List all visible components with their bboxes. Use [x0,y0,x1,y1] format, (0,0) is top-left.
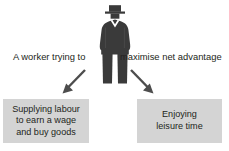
worker-net-advantage-diagram: A worker trying to maximise net advantag… [0,0,229,151]
arrow-to-enjoying-leisure-icon [128,68,158,98]
arrow-to-supplying-labour-icon [58,68,88,98]
outcome-line: Enjoying [156,109,203,121]
outcome-line: and buy goods [12,127,80,139]
outcome-box-enjoying-leisure: Enjoying leisure time [137,99,222,143]
outcome-box-enjoying-leisure-text: Enjoying leisure time [156,109,203,132]
outcome-line: Supplying labour [12,104,80,116]
outcome-box-supplying-labour-text: Supplying labour to earn a wage and buy … [12,104,80,139]
outcome-line: to earn a wage [12,115,80,127]
headline-text-right: maximise net advantage [120,50,222,63]
outcome-line: leisure time [156,121,203,133]
headline-text-left: A worker trying to [13,50,85,63]
outcome-box-supplying-labour: Supplying labour to earn a wage and buy … [3,99,89,143]
